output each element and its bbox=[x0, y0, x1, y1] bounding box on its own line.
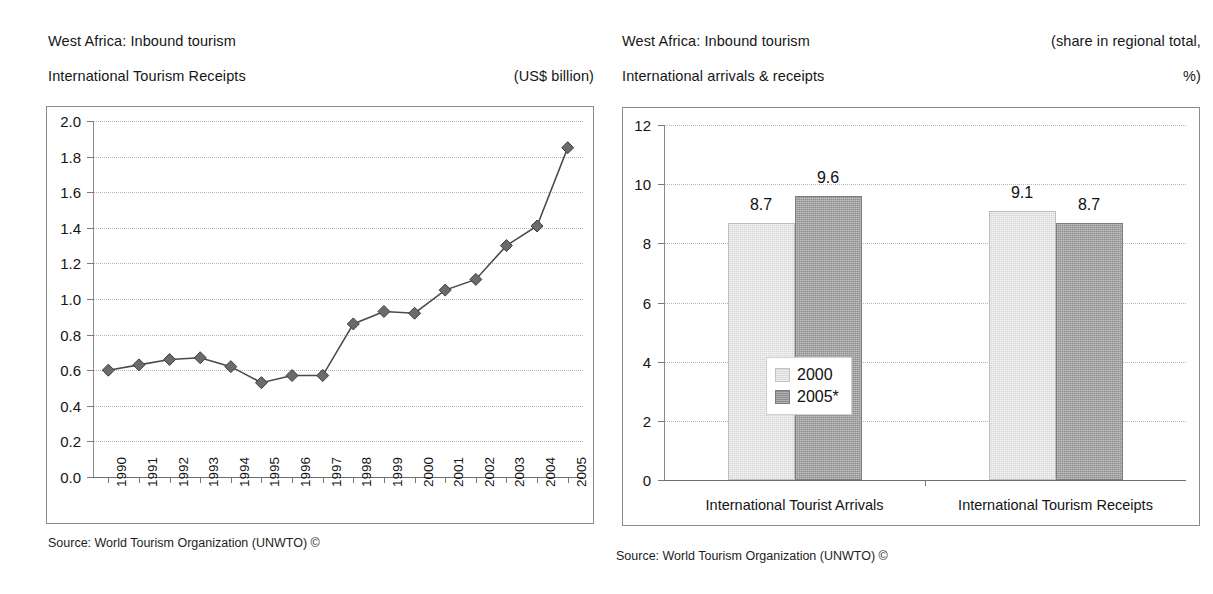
category-label: International Tourist Arrivals bbox=[706, 497, 884, 513]
legend-label: 2005* bbox=[797, 388, 839, 406]
y-axis-label: 4 bbox=[625, 353, 651, 370]
bar-value-label: 8.7 bbox=[750, 196, 772, 214]
data-point-marker bbox=[225, 361, 237, 373]
bar-2005-1 bbox=[795, 196, 862, 480]
x-axis-tick bbox=[108, 477, 109, 483]
right-chart-unit-note-line1: (share in regional total, bbox=[1051, 33, 1201, 49]
right-chart-title-line2: International arrivals & receipts bbox=[622, 68, 824, 84]
x-axis-tick bbox=[476, 477, 477, 483]
data-point-marker bbox=[194, 352, 206, 364]
data-point-marker bbox=[317, 370, 329, 382]
x-axis-tick bbox=[200, 477, 201, 483]
left-chart-frame: 0.00.20.40.60.81.01.21.41.61.82.01990199… bbox=[46, 106, 594, 524]
data-point-marker bbox=[102, 364, 114, 376]
y-axis-line bbox=[664, 125, 665, 480]
bar-value-label: 9.6 bbox=[817, 169, 839, 187]
legend-label: 2000 bbox=[797, 366, 833, 384]
left-chart-unit-note: (US$ billion) bbox=[514, 68, 594, 84]
x-axis-tick bbox=[415, 477, 416, 483]
y-axis-label: 0.4 bbox=[41, 397, 81, 414]
x-axis-tick bbox=[170, 477, 171, 483]
x-axis-tick bbox=[323, 477, 324, 483]
y-axis-label: 0 bbox=[625, 472, 651, 489]
left-chart-source: Source: World Tourism Organization (UNWT… bbox=[48, 536, 320, 550]
data-point-marker bbox=[133, 359, 145, 371]
left-chart-panel: West Africa: Inbound tourism Internation… bbox=[0, 0, 606, 594]
legend-swatch-icon bbox=[775, 368, 790, 382]
legend-item-2005[interactable]: 2005* bbox=[775, 386, 839, 408]
right-chart-panel: West Africa: Inbound tourism Internation… bbox=[606, 0, 1213, 594]
bar-2000-1 bbox=[728, 223, 795, 480]
y-axis-label: 1.6 bbox=[41, 184, 81, 201]
right-chart-source: Source: World Tourism Organization (UNWT… bbox=[616, 549, 888, 563]
y-axis-label: 0.6 bbox=[41, 362, 81, 379]
data-point-marker bbox=[531, 220, 543, 232]
y-axis-label: 2 bbox=[625, 412, 651, 429]
x-axis-tick bbox=[537, 477, 538, 483]
data-point-marker bbox=[286, 370, 298, 382]
bar-value-label: 9.1 bbox=[1011, 184, 1033, 202]
y-axis-label: 0.8 bbox=[41, 326, 81, 343]
gridline bbox=[664, 184, 1186, 185]
data-point-marker bbox=[562, 142, 574, 154]
gridline bbox=[664, 125, 1186, 126]
x-axis-tick bbox=[261, 477, 262, 483]
chart-legend: 20002005* bbox=[766, 357, 852, 415]
x-axis-tick bbox=[925, 480, 926, 486]
data-point-marker bbox=[439, 284, 451, 296]
y-axis-label: 1.0 bbox=[41, 291, 81, 308]
y-axis-label: 0.0 bbox=[41, 469, 81, 486]
y-axis-label: 12 bbox=[625, 117, 651, 134]
category-label: International Tourism Receipts bbox=[958, 497, 1153, 513]
data-point-marker bbox=[378, 305, 390, 317]
data-point-marker bbox=[255, 377, 267, 389]
y-axis-label: 6 bbox=[625, 294, 651, 311]
right-chart-unit-note-line2: %) bbox=[1183, 68, 1201, 84]
x-axis-tick bbox=[445, 477, 446, 483]
bar-2000-2 bbox=[989, 211, 1056, 480]
data-point-marker bbox=[164, 354, 176, 366]
y-axis-label: 1.4 bbox=[41, 219, 81, 236]
x-axis-tick bbox=[292, 477, 293, 483]
y-axis-label: 1.2 bbox=[41, 255, 81, 272]
line-series bbox=[93, 121, 583, 477]
x-axis-tick bbox=[568, 477, 569, 483]
x-axis-tick bbox=[231, 477, 232, 483]
left-chart-title-line2: International Tourism Receipts bbox=[48, 68, 246, 84]
y-axis-label: 8 bbox=[625, 235, 651, 252]
bar-value-label: 8.7 bbox=[1078, 196, 1100, 214]
x-axis-tick bbox=[506, 477, 507, 483]
y-axis-label: 1.8 bbox=[41, 148, 81, 165]
y-axis-label: 0.2 bbox=[41, 433, 81, 450]
x-axis-tick bbox=[353, 477, 354, 483]
legend-item-2000[interactable]: 2000 bbox=[775, 364, 839, 386]
data-point-marker bbox=[409, 307, 421, 319]
bar-2005-2 bbox=[1056, 223, 1123, 480]
left-plot-area: 0.00.20.40.60.81.01.21.41.61.82.01990199… bbox=[93, 121, 583, 477]
right-plot-area: 0246810128.79.6International Tourist Arr… bbox=[664, 125, 1186, 480]
y-axis-label: 10 bbox=[625, 176, 651, 193]
left-chart-title-line1: West Africa: Inbound tourism bbox=[48, 33, 236, 49]
right-chart-frame: 0246810128.79.6International Tourist Arr… bbox=[622, 107, 1200, 526]
x-axis-tick bbox=[139, 477, 140, 483]
legend-swatch-icon bbox=[775, 390, 790, 404]
right-chart-title-line1: West Africa: Inbound tourism bbox=[622, 33, 810, 49]
x-axis-tick bbox=[384, 477, 385, 483]
data-point-marker bbox=[347, 318, 359, 330]
y-axis-label: 2.0 bbox=[41, 113, 81, 130]
